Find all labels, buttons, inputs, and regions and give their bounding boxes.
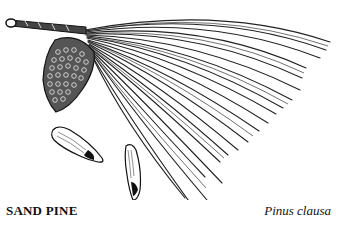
twig-icon [6, 19, 86, 34]
scientific-name-label: Pinus clausa [264, 203, 331, 219]
winged-seed-icon [125, 145, 140, 200]
common-name-label: SAND PINE [6, 203, 78, 219]
pine-cone-icon [43, 38, 94, 112]
pine-needles-icon [85, 20, 330, 200]
winged-seed-icon [52, 127, 103, 162]
pine-illustration [0, 0, 341, 200]
